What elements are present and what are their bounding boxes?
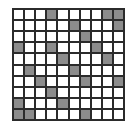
- grid-cell-r5-c9[interactable]: [114, 66, 123, 75]
- grid-cell-r1-c1[interactable]: [25, 21, 34, 30]
- grid-cell-r9-c1[interactable]: [25, 110, 34, 119]
- grid-cell-r8-c6[interactable]: [81, 99, 90, 108]
- grid-cell-r9-c5[interactable]: [70, 110, 79, 119]
- grid-cell-r3-c8[interactable]: [103, 43, 112, 52]
- grid-cell-r9-c2[interactable]: [36, 110, 45, 119]
- grid-cell-r1-c3[interactable]: [47, 21, 56, 30]
- grid-cell-r6-c8[interactable]: [103, 77, 112, 86]
- grid-cell-r8-c3[interactable]: [47, 99, 56, 108]
- grid-cell-r3-c5[interactable]: [70, 43, 79, 52]
- grid-cell-r7-c3[interactable]: [47, 88, 56, 97]
- grid-cell-r3-c6[interactable]: [81, 43, 90, 52]
- grid-cell-r2-c8[interactable]: [103, 32, 112, 41]
- grid-cell-r4-c1[interactable]: [25, 54, 34, 63]
- grid-cell-r7-c4[interactable]: [58, 88, 67, 97]
- grid-cell-r1-c4[interactable]: [58, 21, 67, 30]
- grid-cell-r7-c2[interactable]: [36, 88, 45, 97]
- grid-cell-r0-c6[interactable]: [81, 10, 90, 19]
- grid-cell-r2-c5[interactable]: [70, 32, 79, 41]
- grid-cell-r7-c0[interactable]: [14, 88, 23, 97]
- grid-cell-r4-c0[interactable]: [14, 54, 23, 63]
- grid-cell-r6-c9[interactable]: [114, 77, 123, 86]
- grid-cell-r7-c8[interactable]: [103, 88, 112, 97]
- grid-cell-r1-c6[interactable]: [81, 21, 90, 30]
- grid-cell-r9-c9[interactable]: [114, 110, 123, 119]
- grid-cell-r3-c1[interactable]: [25, 43, 34, 52]
- grid-cell-r0-c0[interactable]: [14, 10, 23, 19]
- grid-cell-r8-c8[interactable]: [103, 99, 112, 108]
- grid-cell-r5-c8[interactable]: [103, 66, 112, 75]
- grid-cell-r1-c9[interactable]: [114, 21, 123, 30]
- grid-cell-r0-c7[interactable]: [92, 10, 101, 19]
- grid-cell-r2-c2[interactable]: [36, 32, 45, 41]
- grid-cell-r9-c7[interactable]: [92, 110, 101, 119]
- grid-cell-r9-c4[interactable]: [58, 110, 67, 119]
- grid-cell-r4-c7[interactable]: [92, 54, 101, 63]
- grid-cell-r9-c8[interactable]: [103, 110, 112, 119]
- grid-cell-r4-c8[interactable]: [103, 54, 112, 63]
- grid-cell-r1-c7[interactable]: [92, 21, 101, 30]
- grid-cell-r5-c0[interactable]: [14, 66, 23, 75]
- grid-cell-r0-c1[interactable]: [25, 10, 34, 19]
- grid-cell-r8-c4[interactable]: [58, 99, 67, 108]
- grid-cell-r0-c3[interactable]: [47, 10, 56, 19]
- grid-cell-r2-c3[interactable]: [47, 32, 56, 41]
- grid-cell-r3-c0[interactable]: [14, 43, 23, 52]
- grid-cell-r8-c1[interactable]: [25, 99, 34, 108]
- grid-cell-r3-c4[interactable]: [58, 43, 67, 52]
- grid-cell-r5-c6[interactable]: [81, 66, 90, 75]
- grid-cell-r0-c8[interactable]: [103, 10, 112, 19]
- grid-cell-r3-c7[interactable]: [92, 43, 101, 52]
- grid-cell-r5-c1[interactable]: [25, 66, 34, 75]
- grid-cell-r9-c6[interactable]: [81, 110, 90, 119]
- grid-cell-r5-c3[interactable]: [47, 66, 56, 75]
- grid-cell-r1-c2[interactable]: [36, 21, 45, 30]
- grid-cell-r8-c7[interactable]: [92, 99, 101, 108]
- grid-cell-r6-c1[interactable]: [25, 77, 34, 86]
- grid-cell-r4-c9[interactable]: [114, 54, 123, 63]
- grid-cell-r7-c1[interactable]: [25, 88, 34, 97]
- grid-cell-r6-c7[interactable]: [92, 77, 101, 86]
- grid-cell-r6-c4[interactable]: [58, 77, 67, 86]
- grid-cell-r4-c4[interactable]: [58, 54, 67, 63]
- grid-cell-r7-c6[interactable]: [81, 88, 90, 97]
- grid-cell-r0-c4[interactable]: [58, 10, 67, 19]
- grid-cell-r6-c6[interactable]: [81, 77, 90, 86]
- grid-cell-r4-c3[interactable]: [47, 54, 56, 63]
- grid-cell-r9-c0[interactable]: [14, 110, 23, 119]
- grid-cell-r8-c9[interactable]: [114, 99, 123, 108]
- grid-cell-r7-c7[interactable]: [92, 88, 101, 97]
- grid-cell-r8-c0[interactable]: [14, 99, 23, 108]
- grid-cell-r4-c5[interactable]: [70, 54, 79, 63]
- grid-cell-r6-c0[interactable]: [14, 77, 23, 86]
- grid-cell-r5-c2[interactable]: [36, 66, 45, 75]
- grid-cell-r0-c5[interactable]: [70, 10, 79, 19]
- grid-cell-r4-c6[interactable]: [81, 54, 90, 63]
- grid-cell-r2-c7[interactable]: [92, 32, 101, 41]
- grid-cell-r8-c2[interactable]: [36, 99, 45, 108]
- grid-cell-r7-c5[interactable]: [70, 88, 79, 97]
- grid-cell-r2-c1[interactable]: [25, 32, 34, 41]
- grid-cell-r1-c0[interactable]: [14, 21, 23, 30]
- grid-cell-r2-c4[interactable]: [58, 32, 67, 41]
- grid-cell-r1-c5[interactable]: [70, 21, 79, 30]
- grid-cell-r3-c9[interactable]: [114, 43, 123, 52]
- grid-cell-r6-c3[interactable]: [47, 77, 56, 86]
- grid-cell-r1-c8[interactable]: [103, 21, 112, 30]
- grid-cell-r6-c2[interactable]: [36, 77, 45, 86]
- grid-cell-r2-c9[interactable]: [114, 32, 123, 41]
- grid-cell-r7-c9[interactable]: [114, 88, 123, 97]
- grid-cell-r8-c5[interactable]: [70, 99, 79, 108]
- grid-cell-r3-c3[interactable]: [47, 43, 56, 52]
- grid-cell-r9-c3[interactable]: [47, 110, 56, 119]
- grid-cell-r2-c0[interactable]: [14, 32, 23, 41]
- grid-cell-r0-c9[interactable]: [114, 10, 123, 19]
- grid-cell-r5-c4[interactable]: [58, 66, 67, 75]
- grid-cell-r2-c6[interactable]: [81, 32, 90, 41]
- grid-cell-r5-c5[interactable]: [70, 66, 79, 75]
- grid-cell-r6-c5[interactable]: [70, 77, 79, 86]
- grid-cell-r5-c7[interactable]: [92, 66, 101, 75]
- grid-cell-r4-c2[interactable]: [36, 54, 45, 63]
- grid-cell-r3-c2[interactable]: [36, 43, 45, 52]
- grid-cell-r0-c2[interactable]: [36, 10, 45, 19]
